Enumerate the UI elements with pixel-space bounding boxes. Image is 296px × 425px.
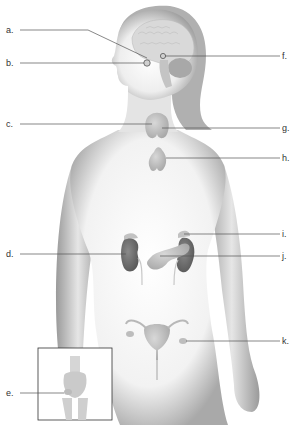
label-d: d. <box>6 249 14 259</box>
left-ovary <box>126 331 134 337</box>
label-g: g. <box>282 123 290 133</box>
label-h: h. <box>282 153 290 163</box>
label-f: f. <box>282 51 287 61</box>
pineal-gland <box>160 53 165 58</box>
label-c: c. <box>6 119 13 129</box>
testis <box>64 389 72 395</box>
label-b: b. <box>6 58 14 68</box>
left-kidney <box>121 238 139 271</box>
endocrine-diagram <box>0 0 296 425</box>
label-k: k. <box>282 336 289 346</box>
label-j: j. <box>282 251 287 261</box>
label-e: e. <box>6 388 14 398</box>
label-a: a. <box>6 25 14 35</box>
vagina <box>156 360 158 380</box>
right-ovary <box>179 338 187 344</box>
pituitary-gland <box>144 60 150 66</box>
cerebellum <box>168 58 192 78</box>
label-i: i. <box>282 229 287 239</box>
